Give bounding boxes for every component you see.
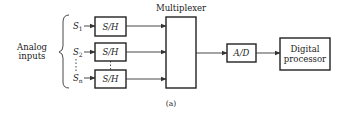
- sample-hold-label-1: S/H: [102, 22, 119, 32]
- input-s1-label: S1: [73, 21, 83, 32]
- digital-processor-label-line1: Digital: [291, 44, 320, 54]
- adc-label: A/D: [233, 48, 250, 58]
- digital-processor-label-line2: processor: [284, 54, 327, 64]
- multiplexer-label: Multiplexer: [156, 3, 207, 13]
- input-sn-label: Sn: [73, 73, 83, 84]
- input-s2-label: S2: [73, 47, 83, 58]
- sample-hold-label-n: S/H: [102, 74, 119, 84]
- sample-hold-label-2: S/H: [102, 47, 119, 57]
- figure-caption: (a): [166, 99, 176, 108]
- sampling-system-diagram: Analog inputs S1 S2 Sn S/H S/H S/H Multi…: [0, 0, 349, 118]
- multiplexer-block: [166, 17, 196, 88]
- input-brace: [59, 15, 69, 88]
- analog-inputs-label-line2: inputs: [19, 51, 46, 61]
